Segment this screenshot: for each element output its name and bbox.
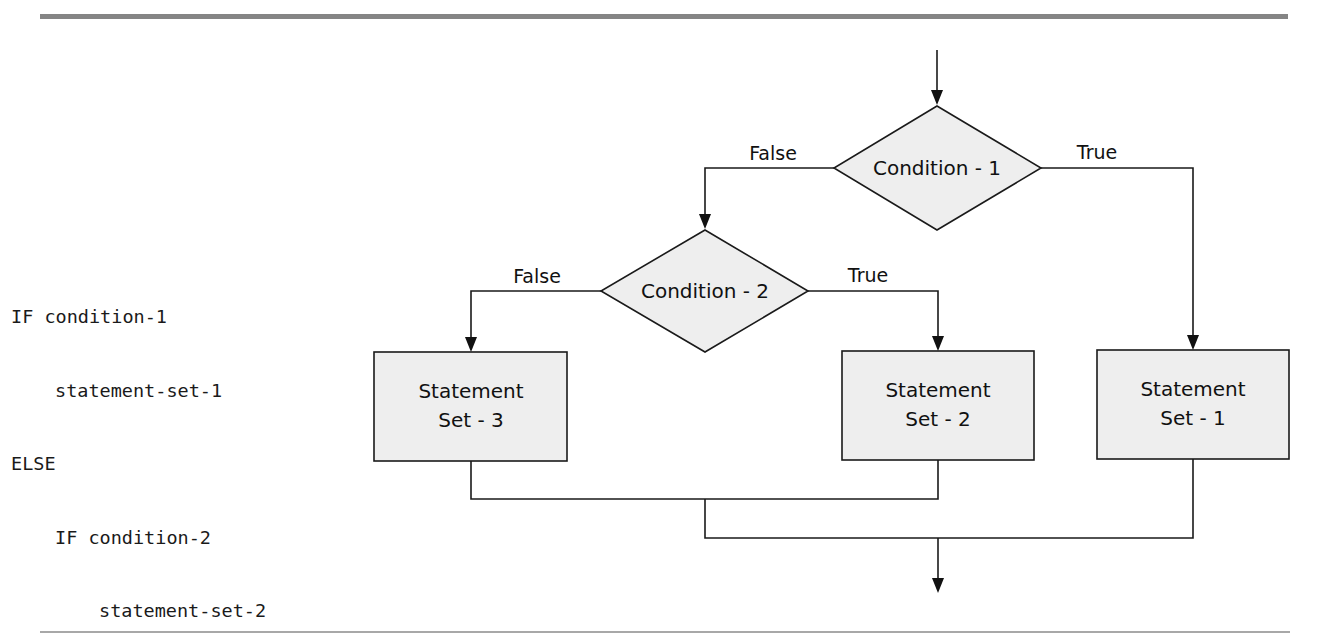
process-label-line2: Set - 2	[905, 407, 971, 431]
decision-condition-1: Condition - 1	[834, 106, 1041, 230]
decision-label: Condition - 2	[641, 279, 769, 303]
bottom-rule	[40, 631, 1290, 633]
process-statement-set-3: Statement Set - 3	[374, 352, 567, 461]
process-statement-set-1: Statement Set - 1	[1097, 350, 1289, 459]
merge-inner-connector	[471, 460, 938, 499]
decision-condition-2: Condition - 2	[601, 230, 808, 352]
flowchart: Condition - 1 False True Condition - 2 F…	[0, 0, 1330, 644]
process-label-line1: Statement	[418, 379, 523, 403]
condition-2-false-label: False	[513, 265, 561, 287]
process-statement-set-2: Statement Set - 2	[842, 351, 1034, 460]
condition-2-true-label: True	[847, 264, 888, 286]
process-label-line2: Set - 3	[438, 408, 504, 432]
condition-1-false-connector	[705, 168, 834, 214]
condition-2-false-connector	[471, 291, 601, 337]
process-label-line2: Set - 1	[1160, 406, 1226, 430]
condition-2-true-connector	[808, 291, 938, 336]
decision-label: Condition - 1	[873, 156, 1001, 180]
process-label-line1: Statement	[885, 378, 990, 402]
process-label-line1: Statement	[1140, 377, 1245, 401]
condition-1-true-connector	[1041, 168, 1193, 335]
condition-1-false-label: False	[749, 142, 797, 164]
condition-1-true-label: True	[1076, 141, 1117, 163]
